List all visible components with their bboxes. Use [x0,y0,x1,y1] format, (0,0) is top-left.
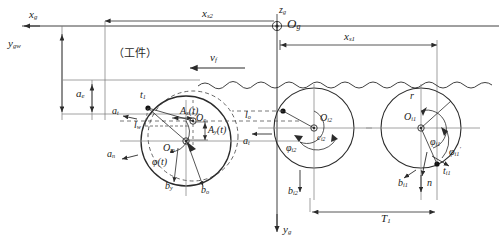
label-phi-i2: φi2 [286,143,296,153]
dimension-label-x-s1: xs1 [344,31,355,43]
label-t1: t1 [140,90,146,100]
label-r-radius: r [410,91,414,101]
origin-label-Og: Og [287,17,300,31]
diagram-vector-layer [0,0,499,246]
dimension-T1 [310,198,435,212]
label-Oi1: Oi1 [404,112,416,122]
label-Ay-t: Ay(t) [208,125,226,135]
workpiece-caption: （工件） [113,44,157,60]
label-bi1: bi1 [398,178,408,188]
cutter-right-group [366,84,480,200]
label-ti1: ti1 [443,166,451,176]
label-bi2: bi2 [288,186,298,196]
axis-label-zg: zg [279,5,286,15]
dimension-label-T1: T1 [381,213,391,225]
label-phi-i1-prime: φi1′ [449,146,461,157]
label-at-middle: at [243,136,250,146]
axis-label-xg: xg [29,9,37,21]
label-lo: lo [245,110,251,120]
label-by: by [165,181,173,191]
axis-label-yg-bottom: yg [283,224,291,236]
label-at-left: at [112,106,119,116]
dimension-label-a-e: ae [76,88,85,100]
cutter-middle-group [232,84,372,200]
label-lw: lw [134,120,141,130]
label-Oc: Oc [196,113,206,123]
label-bo: bo [201,185,209,195]
label-Oi2: Oi2 [320,113,332,123]
label-ci2: ci2 [317,133,325,142]
label-n-normal: n [427,178,432,188]
machined-surface-wave [198,82,492,89]
label-Om: Om [163,143,175,153]
feed-velocity-label: vf [210,52,217,64]
axis-label-ygw: ygw [8,38,21,50]
label-phi-t: φ(t) [152,157,167,167]
label-phi-i1: φi1 [430,137,440,147]
label-an-left: an [107,149,115,159]
figure-canvas: xg ygw yg zg Og （工件） xs2 xs1 ae T1 vf t1… [0,0,499,246]
cutter-left-group [120,91,300,196]
dimension-label-x-s2: xs2 [202,8,213,20]
